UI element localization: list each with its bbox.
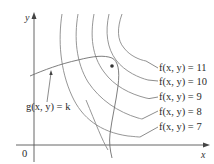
x-axis-arrow-icon xyxy=(203,143,210,148)
level-label-11: f(x, y) = 11 xyxy=(159,62,207,74)
lagrange-diagram: y x 0 f(x, y) = 11 f(x, y) = 10 f(x, y) … xyxy=(0,0,214,164)
leader-g xyxy=(47,73,51,102)
level-curve-8 xyxy=(76,14,142,119)
level-curves xyxy=(60,14,149,150)
y-axis-arrow-icon xyxy=(32,12,37,19)
x-axis-label: x xyxy=(200,149,206,160)
leader-g-arrow-icon xyxy=(49,70,52,75)
leader-8 xyxy=(142,111,158,119)
leader-11 xyxy=(146,61,158,68)
level-curve-10 xyxy=(107,14,148,80)
level-curve-7 xyxy=(60,14,140,137)
leader-9 xyxy=(149,97,158,99)
level-label-10: f(x, y) = 10 xyxy=(159,76,207,88)
level-label-7: f(x, y) = 7 xyxy=(159,121,202,133)
constraint-label: g(x, y) = k xyxy=(26,101,71,113)
axes xyxy=(16,12,210,162)
level-label-8: f(x, y) = 8 xyxy=(159,106,202,118)
leader-7 xyxy=(140,127,158,137)
level-label-9: f(x, y) = 9 xyxy=(159,91,202,103)
labels: y x 0 f(x, y) = 11 f(x, y) = 10 f(x, y) … xyxy=(22,12,207,160)
tangency-point xyxy=(110,64,114,68)
origin-label: 0 xyxy=(22,148,27,159)
level-curve-11 xyxy=(118,14,146,61)
y-axis-label: y xyxy=(24,12,30,23)
leader-10 xyxy=(148,80,158,81)
